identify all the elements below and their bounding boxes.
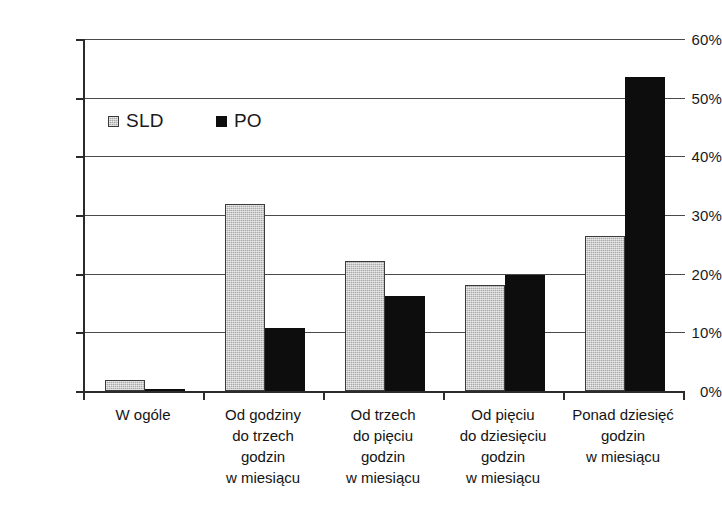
x-tick-mark [563,391,565,400]
gridline [85,98,685,99]
y-tick-mark [76,39,83,41]
x-tick-mark [323,391,325,400]
x-category-label: W ogóle [75,404,211,425]
legend-label-po: PO [234,110,262,132]
legend-item-po: PO [216,110,262,132]
x-category-label: Od godziny do trzech godzin w miesiącu [195,404,331,488]
y-tick-mark [76,98,83,100]
gridline [85,39,685,40]
legend-swatch-sld-icon [108,116,119,127]
bar-sld-0 [105,380,145,391]
y-tick-mark [76,274,83,276]
y-tick-mark [76,391,83,393]
y-tick-mark [76,332,83,334]
bar-po-1 [265,328,305,391]
gridline [85,215,685,216]
bar-sld-2 [345,261,385,391]
gridline [85,156,685,157]
bar-po-4 [625,77,665,391]
x-tick-mark [203,391,205,400]
legend-item-sld: SLD [108,110,164,132]
legend-swatch-po-icon [216,116,227,127]
x-tick-mark [683,391,685,400]
x-category-label: Od trzech do pięciu godzin w miesiącu [315,404,451,488]
y-tick-mark [76,215,83,217]
bar-sld-3 [465,285,505,391]
bar-po-0 [145,389,185,391]
x-tick-mark [83,391,85,400]
bar-chart: 0%10%20%30%40%50%60% W ogóleOd godziny d… [0,0,722,510]
bar-sld-1 [225,204,265,391]
bar-sld-4 [585,236,625,391]
y-tick-mark [76,156,83,158]
bar-po-3 [505,275,545,391]
plot-area [83,39,685,393]
x-category-label: Ponad dziesięć godzin w miesiącu [555,404,691,467]
bar-po-2 [385,296,425,391]
x-category-label: Od pięciu do dziesięciu godzin w miesiąc… [435,404,571,488]
x-tick-mark [443,391,445,400]
legend-label-sld: SLD [126,110,164,132]
legend: SLD PO [108,110,262,132]
